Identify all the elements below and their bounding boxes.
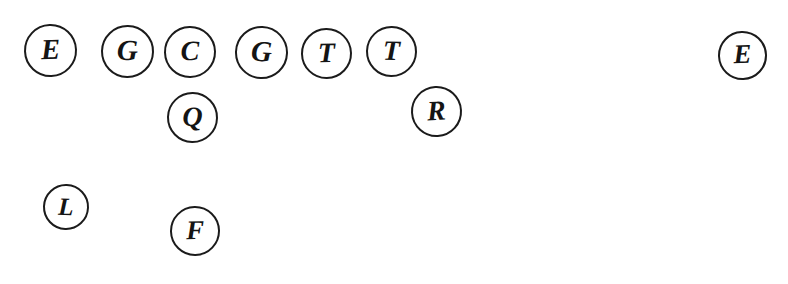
letter-token-g[interactable]: G — [234, 25, 289, 80]
letter-token-canvas: EGCGTTEQRLF — [0, 0, 788, 284]
letter-glyph: G — [116, 35, 137, 64]
letter-token-r[interactable]: R — [409, 84, 463, 138]
letter-glyph: E — [732, 40, 751, 68]
letter-glyph: F — [186, 216, 204, 243]
letter-token-t[interactable]: T — [365, 25, 417, 77]
letter-glyph: T — [382, 36, 400, 64]
letter-token-f[interactable]: F — [170, 206, 221, 257]
letter-token-l[interactable]: L — [42, 183, 90, 231]
letter-glyph: G — [250, 36, 272, 66]
letter-glyph: L — [58, 193, 74, 219]
letter-token-c[interactable]: C — [164, 26, 217, 79]
letter-glyph: E — [40, 34, 60, 64]
letter-token-q[interactable]: Q — [166, 91, 218, 143]
letter-glyph: R — [426, 96, 446, 125]
letter-token-e[interactable]: E — [23, 23, 78, 78]
letter-token-t[interactable]: T — [300, 27, 352, 79]
letter-glyph: T — [317, 38, 335, 66]
letter-glyph: C — [180, 37, 199, 65]
letter-token-g[interactable]: G — [100, 24, 154, 78]
letter-token-e[interactable]: E — [717, 30, 768, 81]
letter-glyph: Q — [182, 102, 203, 130]
